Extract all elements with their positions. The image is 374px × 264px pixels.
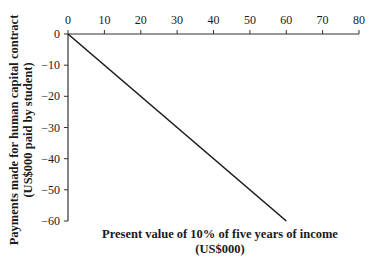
series-line: [68, 34, 286, 221]
y-tick-label: −10: [41, 58, 60, 72]
svg-text:(US$000): (US$000): [195, 242, 244, 256]
x-tick-label: 80: [353, 13, 365, 27]
x-tick-label: 60: [280, 13, 292, 27]
x-tick-label: 50: [244, 13, 256, 27]
x-axis-title: Present value of 10% of five years of in…: [102, 227, 338, 256]
x-tick-label: 40: [208, 13, 220, 27]
y-axis-title: Payments made for human capital contract…: [7, 14, 35, 245]
y-tick-label: −60: [41, 214, 60, 228]
y-tick-label: −40: [41, 152, 60, 166]
x-tick-label: 10: [98, 13, 110, 27]
x-tick-labels: 0 10 20 30 40 50 60 70 80: [65, 13, 365, 27]
y-tick-labels: 0 −10 −20 −30 −40 −50 −60: [41, 27, 60, 228]
x-tick-label: 30: [171, 13, 183, 27]
x-tick-label: 0: [65, 13, 71, 27]
svg-text:Present value of 10% of five y: Present value of 10% of five years of in…: [102, 227, 338, 241]
y-tick-label: −50: [41, 183, 60, 197]
chart: 0 10 20 30 40 50 60 70 80 0 −10 −20 −30 …: [0, 0, 374, 264]
y-tick-label: 0: [54, 27, 60, 41]
svg-text:Payments made for human capita: Payments made for human capital contract: [7, 14, 21, 245]
x-tick-label: 20: [135, 13, 147, 27]
x-tick-label: 70: [317, 13, 329, 27]
y-tick-label: −20: [41, 89, 60, 103]
svg-text:(US$000 paid by student): (US$000 paid by student): [21, 62, 35, 197]
y-tick-label: −30: [41, 121, 60, 135]
